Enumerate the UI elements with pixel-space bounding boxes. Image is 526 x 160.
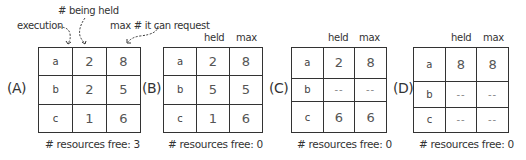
- table-row: a 2 8: [292, 48, 386, 78]
- process-cell: a: [39, 48, 73, 76]
- process-cell: b: [39, 76, 73, 105]
- resource-table-c: a 2 8 b -- -- c 6 6: [291, 47, 387, 133]
- process-cell: c: [414, 107, 445, 132]
- process-cell: a: [414, 48, 445, 81]
- table-row: c 1 6: [39, 104, 140, 132]
- held-cell: 2: [197, 48, 230, 76]
- panel-label-a: (A): [7, 80, 26, 96]
- max-cell: 5: [229, 76, 262, 105]
- resources-free-d: # resources free: 0: [419, 138, 514, 150]
- resource-table-a: a 2 8 b 2 5 c 1 6: [38, 47, 141, 133]
- held-cell: 2: [73, 48, 107, 76]
- column-header-max: max: [359, 32, 380, 43]
- held-cell: 1: [197, 104, 230, 132]
- max-cell: 6: [229, 104, 262, 132]
- table-row: c 6 6: [292, 102, 386, 132]
- held-cell: 1: [73, 104, 107, 132]
- process-cell: a: [292, 48, 323, 78]
- panel-label-b: (B): [142, 80, 161, 96]
- max-cell: 6: [355, 102, 386, 132]
- process-cell: b: [414, 81, 445, 107]
- process-cell: c: [39, 104, 73, 132]
- process-cell: a: [164, 48, 197, 76]
- resources-free-a: # resources free: 3: [45, 138, 140, 150]
- resources-free-c: # resources free: 0: [297, 138, 392, 150]
- table-row: b -- --: [414, 81, 508, 107]
- column-header-held: held: [204, 32, 224, 43]
- table-row: a 8 8: [414, 48, 508, 81]
- max-cell: --: [477, 81, 508, 107]
- table-row: c -- --: [414, 107, 508, 132]
- process-cell: b: [164, 76, 197, 105]
- process-cell: b: [292, 78, 323, 101]
- held-cell: --: [323, 78, 354, 101]
- column-header-max: max: [483, 32, 504, 43]
- table-row: a 2 8: [164, 48, 262, 76]
- held-cell: --: [445, 107, 476, 132]
- max-cell: --: [355, 78, 386, 101]
- column-header-max: max: [236, 32, 257, 43]
- held-cell: 5: [197, 76, 230, 105]
- held-cell: 8: [445, 48, 476, 81]
- max-cell: 5: [106, 76, 140, 105]
- column-header-held: held: [328, 32, 348, 43]
- process-cell: c: [292, 102, 323, 132]
- max-cell: 8: [106, 48, 140, 76]
- max-cell: 8: [229, 48, 262, 76]
- table-row: b -- --: [292, 78, 386, 101]
- max-cell: --: [477, 107, 508, 132]
- max-cell: 8: [355, 48, 386, 78]
- held-cell: 2: [73, 76, 107, 105]
- max-cell: 6: [106, 104, 140, 132]
- panel-label-d: (D): [393, 80, 413, 96]
- held-cell: 6: [323, 102, 354, 132]
- table-row: c 1 6: [164, 104, 262, 132]
- max-cell: 8: [477, 48, 508, 81]
- panel-label-c: (C): [269, 80, 288, 96]
- held-cell: --: [445, 81, 476, 107]
- held-cell: 2: [323, 48, 354, 78]
- column-header-held: held: [451, 32, 471, 43]
- process-cell: c: [164, 104, 197, 132]
- resource-table-b: a 2 8 b 5 5 c 1 6: [163, 47, 263, 133]
- resources-free-b: # resources free: 0: [168, 138, 263, 150]
- resource-table-d: a 8 8 b -- -- c -- --: [413, 47, 509, 133]
- table-row: a 2 8: [39, 48, 140, 76]
- table-row: b 2 5: [39, 76, 140, 105]
- table-row: b 5 5: [164, 76, 262, 105]
